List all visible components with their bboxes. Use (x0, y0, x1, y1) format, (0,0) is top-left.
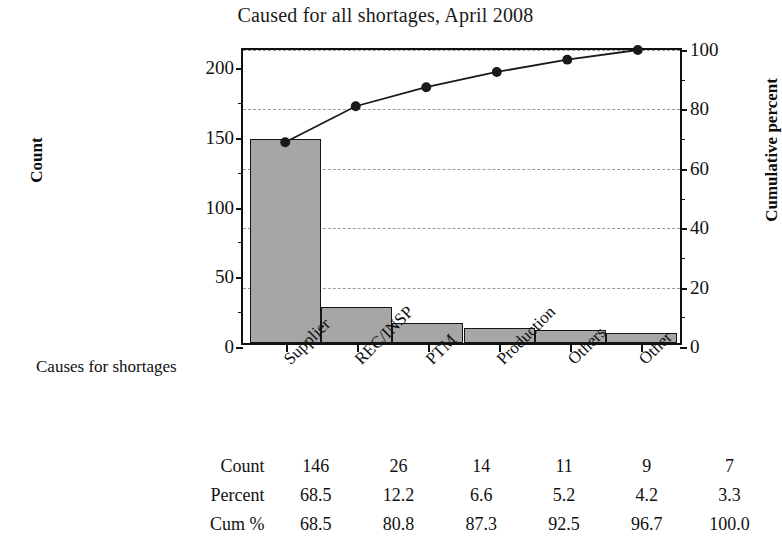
y-tick-label: 150 (206, 127, 235, 149)
table-row: Cum %68.580.887.392.596.7100.0 (0, 510, 771, 539)
y2-tick-mark (680, 228, 687, 230)
table-cell: 3.3 (688, 481, 771, 510)
table-cell: 7 (688, 452, 771, 481)
y2-tick-label: 100 (690, 39, 719, 61)
table-row-label: Cum % (0, 510, 274, 539)
y-axis-title-count: Count (27, 137, 47, 182)
table-cell: 6.6 (440, 481, 523, 510)
y-tick-label: 100 (206, 197, 235, 219)
table-cell: 12.2 (357, 481, 440, 510)
gridline (243, 109, 680, 110)
table-cell: 146 (274, 452, 357, 481)
x-axis-title-causes-for-shortages: Causes for shortages (36, 357, 177, 377)
y2-axis-title-cumulative-percent: Cumulative percent (762, 78, 782, 222)
table-cell: 87.3 (440, 510, 523, 539)
table-cell: 14 (440, 452, 523, 481)
bar-supplier[interactable] (250, 139, 321, 343)
y2-tick-mark-minor (680, 317, 685, 318)
y2-tick-mark-minor (680, 258, 685, 259)
y-tick-mark-minor (238, 242, 243, 243)
cumulative-marker[interactable] (421, 82, 431, 92)
y2-tick-mark (680, 288, 687, 290)
table-row-label: Percent (0, 481, 274, 510)
y2-tick-label: 0 (690, 336, 700, 358)
cumulative-marker[interactable] (492, 67, 502, 77)
y2-tick-mark (680, 109, 687, 111)
y-tick-mark (236, 208, 243, 210)
plot-area: 050100150200 020406080100 SupplierREC/IN… (241, 48, 682, 345)
y-tick-mark-minor (238, 173, 243, 174)
plot-inner: 050100150200 020406080100 SupplierREC/IN… (243, 50, 680, 343)
table-cell: 96.7 (605, 510, 688, 539)
table-cell: 68.5 (274, 510, 357, 539)
y2-tick-label: 60 (690, 158, 709, 180)
table-cell: 4.2 (605, 481, 688, 510)
y2-tick-mark (680, 50, 687, 52)
table-cell: 26 (357, 452, 440, 481)
y-tick-label: 0 (225, 336, 235, 358)
cumulative-line-path (285, 50, 638, 142)
y-tick-mark (236, 277, 243, 279)
table-row: Percent68.512.26.65.24.23.3 (0, 481, 771, 510)
table-cell: 11 (523, 452, 606, 481)
gridline (243, 50, 680, 51)
y2-tick-mark-minor (680, 199, 685, 200)
y2-tick-mark (680, 169, 687, 171)
y-tick-mark (236, 138, 243, 140)
y2-tick-mark-minor (680, 80, 685, 81)
table-cell: 92.5 (523, 510, 606, 539)
table-cell: 100.0 (688, 510, 771, 539)
table-row-label: Count (0, 452, 274, 481)
y-tick-label: 50 (215, 266, 234, 288)
y2-tick-label: 40 (690, 217, 709, 239)
table-cell: 5.2 (523, 481, 606, 510)
table-cell: 80.8 (357, 510, 440, 539)
y2-tick-label: 20 (690, 277, 709, 299)
y-tick-mark (236, 68, 243, 70)
y-tick-mark-minor (238, 312, 243, 313)
y-tick-mark (236, 347, 243, 349)
pareto-data-table: Count14626141197Percent68.512.26.65.24.2… (0, 452, 771, 539)
y2-tick-label: 80 (690, 98, 709, 120)
cumulative-markers (280, 45, 643, 147)
chart-title: Caused for all shortages, April 2008 (0, 4, 771, 27)
cumulative-marker[interactable] (562, 55, 572, 65)
y2-tick-mark (680, 347, 687, 349)
table-row: Count14626141197 (0, 452, 771, 481)
y2-tick-mark-minor (680, 139, 685, 140)
table-cell: 68.5 (274, 481, 357, 510)
y-tick-mark-minor (238, 103, 243, 104)
y-tick-label: 200 (206, 57, 235, 79)
table-cell: 9 (605, 452, 688, 481)
